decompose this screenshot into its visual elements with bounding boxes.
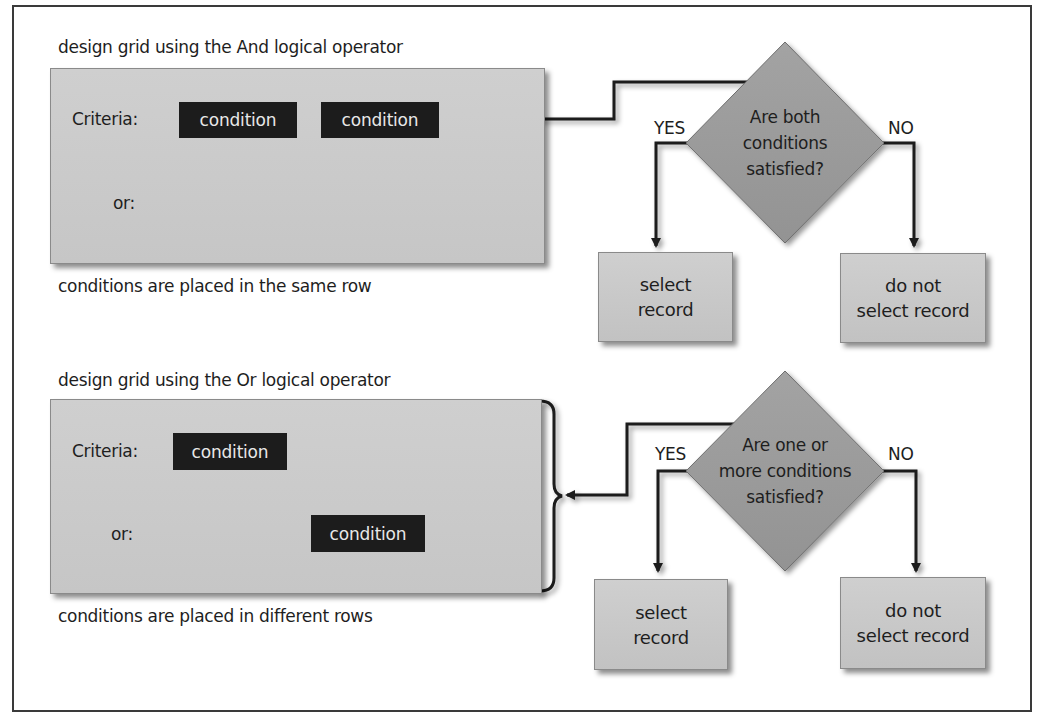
or-select-record-box: selectrecord <box>594 579 728 670</box>
criteria-label: Criteria: <box>72 109 138 129</box>
or-label: or: <box>111 524 133 544</box>
or-label: or: <box>113 193 135 213</box>
and-design-grid: Criteria: or: condition condition <box>50 68 545 264</box>
or-grid-title: design grid using the Or logical operato… <box>58 370 390 390</box>
and-do-not-select-box: do notselect record <box>840 253 986 343</box>
and-grid-title: design grid using the And logical operat… <box>58 37 403 57</box>
condition-box: condition <box>179 102 297 138</box>
or-no-label: NO <box>888 444 914 464</box>
and-grid-footer: conditions are placed in the same row <box>58 276 371 296</box>
and-no-label: NO <box>888 118 914 138</box>
condition-box: condition <box>173 433 287 470</box>
and-select-record-box: selectrecord <box>598 252 733 342</box>
or-yes-label: YES <box>655 444 686 464</box>
condition-box: condition <box>321 102 439 138</box>
or-grid-footer: conditions are placed in different rows <box>58 606 373 626</box>
or-design-grid: Criteria: or: condition condition <box>50 399 542 594</box>
and-decision-question: Are both conditions satisfied? <box>705 104 865 182</box>
criteria-label: Criteria: <box>72 441 138 461</box>
or-grid-bracket <box>540 401 562 591</box>
or-decision-question: Are one or more conditions satisfied? <box>700 432 870 510</box>
and-yes-label: YES <box>654 118 685 138</box>
condition-box: condition <box>311 515 425 552</box>
or-do-not-select-box: do notselect record <box>840 577 986 669</box>
